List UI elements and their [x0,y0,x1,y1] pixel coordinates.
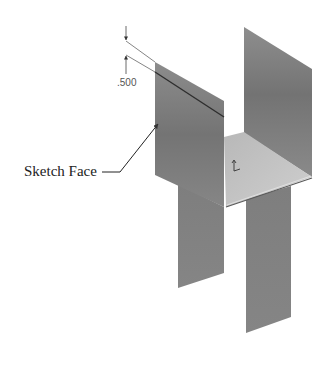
callout-label-sketch-face: Sketch Face [24,163,97,179]
dimension-value: .500 [117,77,137,88]
callout-leader [102,124,158,172]
dimension-extension-lines [126,41,155,72]
left-flange-panel-sketch-face [155,62,224,207]
sheet-metal-diagram: .500 Sketch Face [0,0,335,368]
right-leg-panel [246,186,291,333]
